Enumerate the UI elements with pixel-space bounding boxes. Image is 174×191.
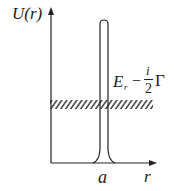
- gamma-symbol: Γ: [155, 72, 165, 89]
- minus-sign: −: [132, 73, 141, 89]
- x-axis-arrow-icon: [149, 160, 157, 166]
- x-axis-label: r: [144, 168, 151, 185]
- energy-label: E r − i 2 Γ: [113, 64, 173, 100]
- barrier-position-label: a: [98, 168, 107, 186]
- fraction-bar: [144, 79, 153, 80]
- energy-level-band: [50, 100, 153, 109]
- potential-barrier: [93, 20, 115, 163]
- energy-subscript: r: [124, 83, 128, 92]
- x-axis: [51, 160, 157, 166]
- energy-symbol: E: [113, 73, 123, 90]
- y-axis-label: U(r): [12, 5, 42, 22]
- fraction-numerator: i: [146, 64, 150, 77]
- y-axis-arrow-icon: [48, 7, 54, 15]
- y-axis: [48, 7, 54, 163]
- fraction-denominator: 2: [145, 82, 152, 96]
